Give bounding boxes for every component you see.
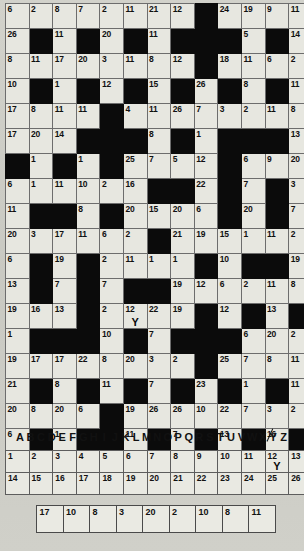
crossword-cell[interactable]: 12: [171, 54, 195, 79]
crossword-cell[interactable]: 6: [194, 204, 218, 229]
crossword-cell[interactable]: 11: [289, 4, 304, 29]
crossword-cell[interactable]: 20: [171, 204, 195, 229]
crossword-cell[interactable]: 7: [147, 379, 171, 404]
alphabet-letter-g[interactable]: G: [78, 431, 88, 443]
crossword-cell[interactable]: 12: [171, 4, 195, 29]
crossword-cell[interactable]: 9: [265, 4, 289, 29]
crossword-cell[interactable]: 24: [218, 4, 242, 29]
crossword-cell[interactable]: 11: [29, 54, 53, 79]
crossword-cell[interactable]: 25: [123, 154, 147, 179]
alphabet-letter-k[interactable]: K: [120, 431, 130, 443]
crossword-cell[interactable]: 17: [6, 129, 30, 154]
crossword-cell[interactable]: 20: [289, 154, 304, 179]
letter-key-cell[interactable]: 1: [6, 451, 30, 473]
crossword-cell[interactable]: 6: [265, 54, 289, 79]
answer-cell[interactable]: 20: [143, 506, 170, 533]
crossword-cell[interactable]: 19: [241, 4, 265, 29]
alphabet-letter-o[interactable]: O: [163, 431, 173, 443]
crossword-cell[interactable]: 8: [147, 54, 171, 79]
crossword-cell[interactable]: 26: [6, 29, 30, 54]
crossword-cell[interactable]: 6: [76, 404, 100, 429]
alphabet-letter-b[interactable]: B: [26, 431, 36, 443]
crossword-cell[interactable]: 12: [218, 304, 242, 329]
letter-key-cell[interactable]: 16: [53, 473, 77, 495]
crossword-cell[interactable]: 11: [76, 229, 100, 254]
crossword-cell[interactable]: 15: [147, 204, 171, 229]
crossword-cell[interactable]: 11: [123, 54, 147, 79]
crossword-cell[interactable]: 19: [171, 279, 195, 304]
crossword-cell[interactable]: 11: [123, 254, 147, 279]
letter-key-cell[interactable]: 18: [100, 473, 124, 495]
crossword-cell[interactable]: 11: [147, 29, 171, 54]
crossword-cell[interactable]: 16: [29, 304, 53, 329]
crossword-cell[interactable]: 21: [171, 229, 195, 254]
crossword-cell[interactable]: 11: [53, 179, 77, 204]
alphabet-letter-y[interactable]: Y: [268, 431, 278, 443]
crossword-cell[interactable]: 19: [6, 304, 30, 329]
alphabet-letter-v[interactable]: V: [236, 431, 246, 443]
crossword-cell[interactable]: 8: [53, 4, 77, 29]
answer-cell[interactable]: 8: [222, 506, 249, 533]
crossword-cell[interactable]: 3: [100, 54, 124, 79]
crossword-cell[interactable]: 13: [6, 279, 30, 304]
crossword-cell[interactable]: 13: [265, 304, 289, 329]
letter-key-cell[interactable]: 19: [123, 473, 147, 495]
crossword-cell[interactable]: 8: [265, 354, 289, 379]
crossword-cell[interactable]: 7: [76, 4, 100, 29]
crossword-cell[interactable]: 1: [53, 79, 77, 104]
letter-key-cell[interactable]: 9: [194, 451, 218, 473]
crossword-cell[interactable]: 2: [100, 4, 124, 29]
crossword-cell[interactable]: 10: [100, 329, 124, 354]
crossword-cell[interactable]: 8: [29, 104, 53, 129]
alphabet-letter-z[interactable]: Z: [279, 431, 289, 443]
crossword-cell[interactable]: 7: [289, 204, 304, 229]
crossword-cell[interactable]: 7: [147, 154, 171, 179]
alphabet-letter-r[interactable]: R: [194, 431, 204, 443]
crossword-cell[interactable]: 2: [100, 254, 124, 279]
crossword-cell[interactable]: 2: [100, 304, 124, 329]
alphabet-letter-t[interactable]: T: [215, 431, 225, 443]
crossword-cell[interactable]: 23: [194, 379, 218, 404]
crossword-cell[interactable]: 12: [194, 279, 218, 304]
crossword-cell[interactable]: 11: [53, 104, 77, 129]
crossword-cell[interactable]: 2: [100, 179, 124, 204]
crossword-cell[interactable]: 6: [6, 254, 30, 279]
letter-key-cell[interactable]: 4: [76, 451, 100, 473]
crossword-cell[interactable]: 11: [147, 104, 171, 129]
crossword-cell[interactable]: 14: [53, 129, 77, 154]
crossword-cell[interactable]: 19: [6, 354, 30, 379]
crossword-cell[interactable]: 20: [29, 129, 53, 154]
crossword-cell[interactable]: 11: [289, 379, 304, 404]
crossword-cell[interactable]: 26: [194, 79, 218, 104]
crossword-cell[interactable]: 20: [123, 354, 147, 379]
crossword-cell[interactable]: 2: [289, 229, 304, 254]
crossword-cell[interactable]: 20: [76, 54, 100, 79]
crossword-cell[interactable]: 3: [289, 179, 304, 204]
crossword-cell[interactable]: 15: [147, 79, 171, 104]
crossword-cell[interactable]: 10: [194, 404, 218, 429]
crossword-cell[interactable]: 1: [147, 254, 171, 279]
alphabet-letter-p[interactable]: P: [173, 431, 183, 443]
crossword-cell[interactable]: 22: [147, 304, 171, 329]
crossword-cell[interactable]: 2: [289, 329, 304, 354]
crossword-cell[interactable]: 11: [76, 104, 100, 129]
crossword-cell[interactable]: 17: [53, 354, 77, 379]
alphabet-letter-i[interactable]: I: [99, 431, 109, 443]
answer-cell[interactable]: 2: [169, 506, 196, 533]
crossword-cell[interactable]: 20: [53, 404, 77, 429]
letter-key-cell[interactable]: 6: [123, 451, 147, 473]
crossword-cell[interactable]: 26: [171, 404, 195, 429]
crossword-cell[interactable]: 11: [241, 54, 265, 79]
crossword-cell[interactable]: 6: [241, 329, 265, 354]
crossword-cell[interactable]: 8: [76, 204, 100, 229]
crossword-cell[interactable]: 3: [265, 404, 289, 429]
crossword-cell[interactable]: 2: [171, 354, 195, 379]
crossword-cell[interactable]: 11: [265, 279, 289, 304]
alphabet-letter-d[interactable]: D: [47, 431, 57, 443]
crossword-cell[interactable]: 17: [29, 354, 53, 379]
alphabet-letter-e[interactable]: E: [57, 431, 67, 443]
crossword-cell[interactable]: 10: [76, 179, 100, 204]
letter-key-cell[interactable]: 13: [289, 451, 304, 473]
crossword-cell[interactable]: 1: [29, 179, 53, 204]
crossword-cell[interactable]: 15: [218, 229, 242, 254]
